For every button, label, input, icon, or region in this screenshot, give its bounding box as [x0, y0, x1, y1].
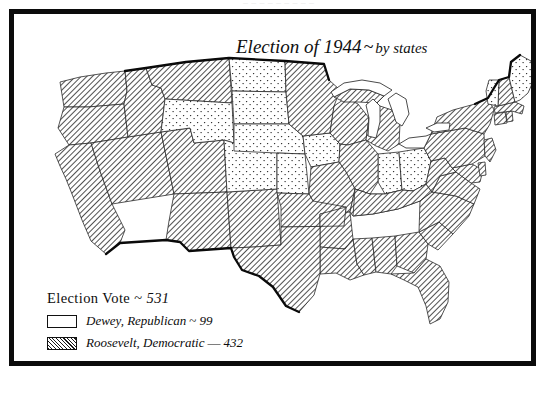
legend-label-roosevelt: Roosevelt, Democratic—432: [86, 335, 243, 351]
legend-dash-roosevelt: —: [204, 335, 223, 350]
legend-votes-roosevelt: 432: [223, 335, 243, 350]
state-washington: [60, 71, 127, 107]
state-new-mexico: [227, 189, 281, 248]
legend-label-dewey: Dewey, Republican~99: [86, 313, 212, 329]
state-florida: [391, 259, 449, 324]
state-new-jersey: [484, 138, 496, 162]
map-plate-interior: Election of 1944~by states: [14, 14, 531, 361]
state-connecticut: [494, 112, 507, 125]
state-indiana: [378, 152, 402, 194]
legend-row-dewey: Dewey, Republican~99: [47, 313, 243, 329]
lake-ontario: [426, 123, 450, 132]
legend-row-roosevelt: Roosevelt, Democratic—432: [47, 335, 243, 351]
map-frame-border: Election of 1944~by states: [9, 9, 536, 366]
legend-heading-label: Election Vote: [47, 290, 130, 306]
map-plate-page: — — — — — — — — — Election of 1944~by st…: [0, 0, 558, 397]
legend-swatch-dewey-dots: [47, 315, 77, 328]
state-kansas: [277, 153, 309, 194]
legend-heading-dash: ~: [134, 290, 142, 306]
legend-dash-dewey: ~: [186, 313, 199, 328]
legend-heading-total: 531: [147, 290, 170, 306]
scan-bleed-text: — — — — — — — — —: [0, 0, 558, 8]
legend-candidate-roosevelt: Roosevelt, Democratic: [86, 335, 204, 350]
state-north-dakota: [229, 58, 286, 92]
legend-heading: Election Vote ~ 531: [47, 290, 243, 307]
legend-votes-dewey: 99: [199, 313, 212, 328]
state-wisconsin: [330, 98, 369, 145]
legend-candidate-dewey: Dewey, Republican: [86, 313, 186, 328]
state-rhode-island: [506, 111, 513, 122]
map-legend: Election Vote ~ 531 Dewey, Republican~99…: [47, 290, 243, 351]
legend-swatch-roosevelt-hatch: [47, 337, 77, 350]
state-alabama: [372, 236, 397, 274]
state-south-dakota: [232, 91, 289, 124]
